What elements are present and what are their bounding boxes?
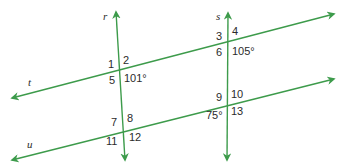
- angle-label-1: 1: [108, 58, 114, 70]
- line-label-u: u: [27, 138, 33, 150]
- geometry-diagram: r s t u 1 2 5 101° 3 4 6 105° 7 8 11 12 …: [0, 0, 345, 168]
- diagram-canvas: r s t u 1 2 5 101° 3 4 6 105° 7 8 11 12 …: [0, 0, 345, 168]
- angle-label-9: 9: [216, 91, 222, 103]
- angle-label-8: 8: [127, 112, 133, 124]
- angle-label-10: 10: [231, 88, 243, 100]
- given-angle-101: 101°: [124, 72, 147, 84]
- given-angle-75: 75°: [206, 109, 223, 121]
- angle-label-7: 7: [111, 116, 117, 128]
- line-u: [12, 79, 334, 160]
- angle-label-4: 4: [232, 25, 238, 37]
- angle-label-5: 5: [109, 74, 115, 86]
- angle-label-3: 3: [216, 30, 222, 42]
- angle-label-6: 6: [216, 46, 222, 58]
- line-label-s: s: [216, 10, 220, 22]
- line-label-r: r: [103, 10, 108, 22]
- angle-label-12: 12: [129, 131, 141, 143]
- line-t: [12, 14, 334, 98]
- angle-label-11: 11: [106, 135, 117, 147]
- angle-label-2: 2: [123, 54, 129, 66]
- line-label-t: t: [28, 76, 32, 88]
- given-angle-105: 105°: [232, 45, 255, 57]
- angle-label-13: 13: [231, 105, 243, 117]
- line-s: [227, 13, 228, 160]
